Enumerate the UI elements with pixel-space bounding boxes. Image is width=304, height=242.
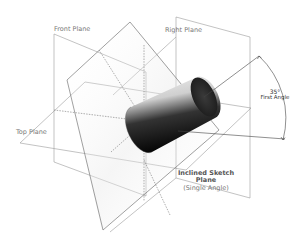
angle-label: 35° First Angle (258, 89, 292, 101)
inclined-plane-label: Inclined Sketch Plane (Single Angle) (176, 170, 236, 192)
angle-name: First Angle (258, 95, 292, 101)
top-plane-label: Top Plane (16, 129, 47, 136)
inclined-label-line3: (Single Angle) (176, 185, 236, 192)
right-plane-label: Right Plane (165, 27, 202, 34)
plane-diagram (0, 0, 304, 242)
front-plane-label: Front Plane (54, 26, 90, 33)
